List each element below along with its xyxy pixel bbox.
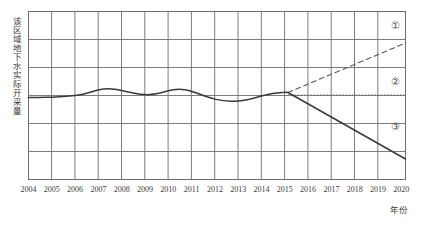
series-label-1: ① — [391, 20, 400, 31]
x-axis-label: 年份 — [390, 203, 408, 215]
series-label-2: ② — [391, 76, 400, 87]
groundwater-extraction-line-chart: 该区域地下水实际开采量 — [0, 0, 431, 225]
xtick-2020: 2020 — [386, 185, 416, 194]
series-label-3: ③ — [391, 121, 400, 132]
